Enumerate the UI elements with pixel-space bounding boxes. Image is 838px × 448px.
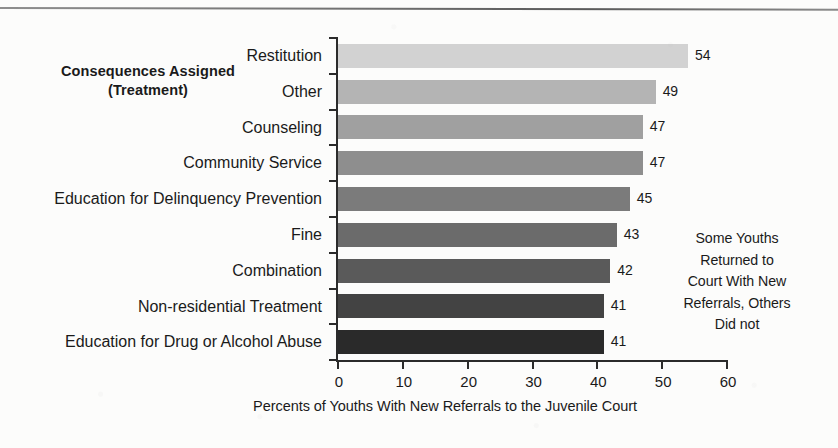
x-axis-tick-label: 20: [449, 373, 489, 390]
category-label-2: Other: [0, 74, 330, 110]
annotation-line-5: Did not: [648, 314, 826, 336]
bar-row: Other49: [0, 74, 838, 110]
bar-1: [338, 44, 688, 68]
category-label-text: Non-residential Treatment: [138, 298, 322, 316]
bar-8: [338, 294, 604, 318]
category-label-7: Combination: [0, 253, 330, 289]
bar-value-3: 47: [650, 118, 665, 134]
category-label-3: Counseling: [0, 110, 330, 146]
y-axis-tick: [329, 144, 338, 146]
category-label-4: Community Service: [0, 145, 330, 181]
y-axis-tick: [329, 73, 338, 75]
bar-row: Restitution54: [0, 38, 838, 74]
bar-value-6: 43: [624, 226, 639, 242]
y-axis-tick: [329, 216, 338, 218]
y-axis-tick: [329, 37, 338, 39]
x-axis-tick: [467, 360, 469, 369]
bar-3: [338, 115, 643, 139]
bar-value-9: 41: [611, 333, 626, 349]
annotation-line-3: Court With New: [648, 271, 826, 293]
x-axis-tick-label: 30: [514, 373, 554, 390]
category-label-text: Community Service: [183, 154, 322, 172]
x-axis-tick-label: 40: [578, 373, 618, 390]
bar-value-7: 42: [617, 262, 632, 278]
bar-value-8: 41: [611, 297, 626, 313]
annotation-line-4: Referrals, Others: [648, 293, 826, 315]
x-axis-tick: [726, 360, 728, 369]
bar-6: [338, 223, 617, 247]
bar-9: [338, 330, 604, 354]
y-axis-tick: [329, 288, 338, 290]
scanned-page: Consequences Assigned (Treatment) Restit…: [0, 0, 838, 448]
category-label-text: Other: [282, 83, 322, 101]
category-label-text: Education for Drug or Alcohol Abuse: [65, 333, 322, 351]
category-label-text: Fine: [291, 226, 322, 244]
category-label-text: Restitution: [246, 47, 322, 65]
category-label-8: Non-residential Treatment: [0, 289, 330, 325]
annotation-line-2: Returned to: [648, 250, 826, 272]
x-axis-title: Percents of Youths With New Referrals to…: [0, 398, 838, 414]
y-axis-tick: [329, 323, 338, 325]
category-label-9: Education for Drug or Alcohol Abuse: [0, 324, 330, 360]
bar-row: Counseling47: [0, 110, 838, 146]
category-label-text: Combination: [232, 262, 322, 280]
category-label-1: Restitution: [0, 38, 330, 74]
bar-chart-plot: Restitution54Other49Counseling47Communit…: [0, 0, 838, 448]
x-axis-tick: [402, 360, 404, 369]
bar-value-4: 47: [650, 154, 665, 170]
x-axis-tick: [337, 360, 339, 369]
category-label-5: Education for Delinquency Prevention: [0, 181, 330, 217]
annotation-line-1: Some Youths: [648, 228, 826, 250]
x-axis-tick: [596, 360, 598, 369]
x-axis-title-text: Percents of Youths With New Referrals to…: [253, 398, 637, 414]
bar-5: [338, 187, 630, 211]
bar-value-5: 45: [637, 190, 652, 206]
y-axis-tick: [329, 252, 338, 254]
bar-value-1: 54: [695, 47, 710, 63]
chart-annotation: Some YouthsReturned toCourt With NewRefe…: [648, 228, 826, 336]
bar-7: [338, 259, 610, 283]
x-axis-tick-label: 10: [384, 373, 424, 390]
x-axis-tick: [532, 360, 534, 369]
x-axis-tick: [661, 360, 663, 369]
bar-2: [338, 80, 656, 104]
bar-value-2: 49: [663, 83, 678, 99]
y-axis-tick: [329, 180, 338, 182]
bar-4: [338, 151, 643, 175]
bar-row: Community Service47: [0, 145, 838, 181]
x-axis-tick-label: 60: [708, 373, 748, 390]
category-label-text: Education for Delinquency Prevention: [54, 190, 322, 208]
x-axis-tick-label: 0: [319, 373, 359, 390]
category-label-text: Counseling: [242, 119, 322, 137]
bar-row: Education for Delinquency Prevention45: [0, 181, 838, 217]
category-label-6: Fine: [0, 217, 330, 253]
x-axis-tick-label: 50: [643, 373, 683, 390]
y-axis-tick: [329, 109, 338, 111]
